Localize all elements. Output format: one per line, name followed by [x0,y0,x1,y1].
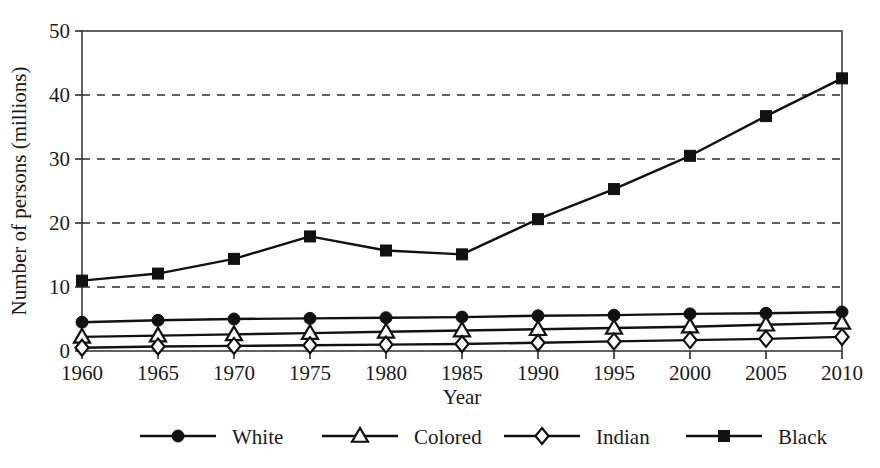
chart-background [0,0,880,468]
x-tick-label-1970: 1970 [213,361,255,385]
marker-filled-square [837,73,848,84]
legend-label-indian: Indian [596,425,650,449]
x-axis-title: Year [443,385,482,409]
legend-label-black: Black [778,425,827,449]
legend-label-white: White [232,425,283,449]
y-tick-label-50: 50 [49,19,70,43]
x-tick-label-2010: 2010 [821,361,863,385]
marker-filled-circle [172,430,184,442]
x-tick-label-1980: 1980 [365,361,407,385]
marker-filled-square [457,249,468,260]
y-tick-label-30: 30 [49,147,70,171]
line-chart: 01020304050 1960196519701975198019851990… [0,0,880,468]
x-tick-label-1985: 1985 [441,361,483,385]
chart-figure: 01020304050 1960196519701975198019851990… [0,0,880,468]
marker-filled-square [761,111,772,122]
x-tick-label-1990: 1990 [517,361,559,385]
marker-filled-square [229,253,240,264]
marker-filled-square [153,268,164,279]
marker-filled-square [685,150,696,161]
legend-label-colored: Colored [414,425,482,449]
marker-filled-circle [304,312,316,324]
marker-filled-square [533,214,544,225]
y-tick-label-20: 20 [49,211,70,235]
x-tick-label-1995: 1995 [593,361,635,385]
marker-filled-circle [228,313,240,325]
marker-filled-square [719,431,730,442]
x-tick-label-2000: 2000 [669,361,711,385]
marker-filled-circle [76,316,88,328]
marker-filled-square [381,245,392,256]
marker-filled-square [77,275,88,286]
x-tick-label-2005: 2005 [745,361,787,385]
y-tick-label-40: 40 [49,83,70,107]
marker-filled-circle [152,314,164,326]
x-tick-label-1965: 1965 [137,361,179,385]
y-tick-label-0: 0 [60,339,71,363]
marker-filled-square [305,231,316,242]
marker-filled-square [609,184,620,195]
x-tick-label-1960: 1960 [61,361,103,385]
y-tick-label-10: 10 [49,275,70,299]
x-tick-label-1975: 1975 [289,361,331,385]
y-axis-title: Number of persons (millions) [7,66,31,315]
